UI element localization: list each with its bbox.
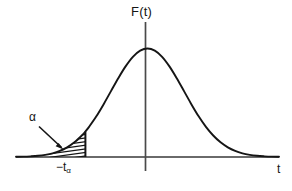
critical-value-base: −t <box>56 160 66 174</box>
hatch-line <box>10 116 89 127</box>
distribution-plot-svg <box>0 0 292 191</box>
hatch-line <box>10 123 89 134</box>
x-axis-label: t <box>277 163 280 175</box>
statistics-distribution-figure: F(t) t α −tα <box>0 0 292 191</box>
critical-value-subscript: α <box>66 166 71 175</box>
critical-value-tick-label: −tα <box>56 161 71 175</box>
shaded-tail-hatching <box>10 116 89 167</box>
density-curve <box>16 49 279 157</box>
alpha-leader-arrow <box>39 127 64 150</box>
y-axis-label: F(t) <box>131 5 152 18</box>
alpha-area-label: α <box>29 111 36 123</box>
hatch-line <box>10 120 89 131</box>
